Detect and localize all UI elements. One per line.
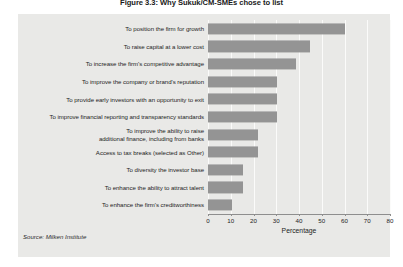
category-label-line: To increase the firm's competitive advan… xyxy=(18,60,204,67)
bar[interactable] xyxy=(208,111,277,122)
bar[interactable] xyxy=(208,164,243,175)
bar[interactable] xyxy=(208,129,258,140)
chart-area: To position the firm for growthTo raise … xyxy=(18,14,390,257)
x-axis-tick xyxy=(367,214,368,216)
bar-row: To provide early investors with an oppor… xyxy=(18,91,390,109)
bar-track xyxy=(208,161,390,179)
bar-track xyxy=(208,91,390,109)
bar[interactable] xyxy=(208,182,243,193)
x-axis-tick xyxy=(345,214,346,216)
bar[interactable] xyxy=(208,23,345,34)
bar-row: To improve financial reporting and trans… xyxy=(18,108,390,126)
category-label: Access to tax breaks (selected as Other) xyxy=(18,149,208,156)
x-axis-tick xyxy=(254,214,255,216)
x-axis-tick-label: 30 xyxy=(273,217,280,224)
x-axis-tick xyxy=(276,214,277,216)
bar-row: To improve the company or brand's reputa… xyxy=(18,73,390,91)
bar-track xyxy=(208,196,390,214)
bar-row: Access to tax breaks (selected as Other) xyxy=(18,143,390,161)
x-axis-tick-label: 40 xyxy=(296,217,303,224)
category-label: To position the firm for growth xyxy=(18,25,208,32)
category-label: To enhance the ability to attract talent xyxy=(18,184,208,191)
x-axis-tick-label: 0 xyxy=(206,217,209,224)
category-label: To enhance the firm's creditworthiness xyxy=(18,201,208,208)
category-label-line: additional finance, including from banks xyxy=(18,135,204,142)
x-axis-tick-label: 70 xyxy=(364,217,371,224)
bar[interactable] xyxy=(208,200,232,211)
x-axis-tick xyxy=(390,214,391,216)
bar-track xyxy=(208,126,390,144)
x-axis-tick-label: 80 xyxy=(387,217,394,224)
bar-track xyxy=(208,108,390,126)
bar-track xyxy=(208,55,390,73)
category-label: To provide early investors with an oppor… xyxy=(18,96,208,103)
category-label: To improve financial reporting and trans… xyxy=(18,113,208,120)
x-axis-tick xyxy=(322,214,323,216)
bar[interactable] xyxy=(208,76,277,87)
gridline xyxy=(390,20,391,214)
category-label-line: To diversity the investor base xyxy=(18,166,204,173)
x-axis-label: Percentage xyxy=(208,227,390,234)
bar[interactable] xyxy=(208,94,277,105)
category-label: To increase the firm's competitive advan… xyxy=(18,60,208,67)
category-label-line: To position the firm for growth xyxy=(18,25,204,32)
bar-track xyxy=(208,143,390,161)
bar-row: To improve the ability to raiseadditiona… xyxy=(18,126,390,144)
x-axis-tick xyxy=(231,214,232,216)
bar-row: To position the firm for growth xyxy=(18,20,390,38)
bar[interactable] xyxy=(208,147,258,158)
bar-row: To increase the firm's competitive advan… xyxy=(18,55,390,73)
figure-container: Figure 3.3: Why Sukuk/CM-SMEs chose to l… xyxy=(0,0,403,267)
x-axis-tick xyxy=(208,214,209,216)
category-label-line: To enhance the ability to attract talent xyxy=(18,184,204,191)
bar-row: To raise capital at a lower cost xyxy=(18,38,390,56)
category-label-line: To raise capital at a lower cost xyxy=(18,43,204,50)
category-label: To improve the ability to raiseadditiona… xyxy=(18,127,208,141)
bar-track xyxy=(208,179,390,197)
bar-track xyxy=(208,38,390,56)
category-label-line: To enhance the firm's creditworthiness xyxy=(18,201,204,208)
chart-panel: To position the firm for growthTo raise … xyxy=(18,14,390,257)
x-axis-tick-label: 20 xyxy=(250,217,257,224)
x-axis-tick-label: 50 xyxy=(318,217,325,224)
category-label-line: To improve the company or brand's reputa… xyxy=(18,78,204,85)
category-label-line: To provide early investors with an oppor… xyxy=(18,96,204,103)
category-label-line: To improve the ability to raise xyxy=(18,127,204,134)
category-label: To diversity the investor base xyxy=(18,166,208,173)
category-label-line: Access to tax breaks (selected as Other) xyxy=(18,149,204,156)
category-label: To improve the company or brand's reputa… xyxy=(18,78,208,85)
bar-row: To diversity the investor base xyxy=(18,161,390,179)
bar[interactable] xyxy=(208,41,310,52)
x-axis-tick-label: 10 xyxy=(227,217,234,224)
x-axis-tick-label: 60 xyxy=(341,217,348,224)
bar-rows: To position the firm for growthTo raise … xyxy=(18,20,390,214)
bar-track xyxy=(208,20,390,38)
bar[interactable] xyxy=(208,59,296,70)
category-label: To raise capital at a lower cost xyxy=(18,43,208,50)
category-label-line: To improve financial reporting and trans… xyxy=(18,113,204,120)
x-axis-tick xyxy=(299,214,300,216)
source-note: Source: Milken Institute xyxy=(23,233,86,240)
bar-track xyxy=(208,73,390,91)
bar-row: To enhance the ability to attract talent xyxy=(18,179,390,197)
figure-title: Figure 3.3: Why Sukuk/CM-SMEs chose to l… xyxy=(0,0,403,7)
x-axis: 01020304050607080 xyxy=(208,214,390,228)
bar-row: To enhance the firm's creditworthiness xyxy=(18,196,390,214)
